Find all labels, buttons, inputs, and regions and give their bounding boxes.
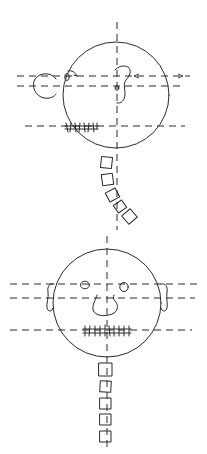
vertebra [100,414,111,425]
profile-vertebrae [100,156,137,224]
vertebra [113,200,126,213]
diagram-canvas [0,0,207,454]
right-ear [161,284,167,311]
frontal-vertebrae [99,363,112,442]
profile-teeth [65,123,98,132]
vertebra [122,209,137,224]
vertebra [105,188,119,202]
vertebra [100,431,111,442]
vertebra [100,381,112,393]
vertebra [99,363,112,376]
nose [93,295,118,316]
left-eye [81,281,90,289]
vertebra [100,398,111,409]
profile-view-figure [17,22,190,230]
vertebra [101,173,113,185]
vertebra [100,156,112,168]
head-spine-alignment-diagram [0,0,207,454]
frontal-view-figure [10,236,200,452]
